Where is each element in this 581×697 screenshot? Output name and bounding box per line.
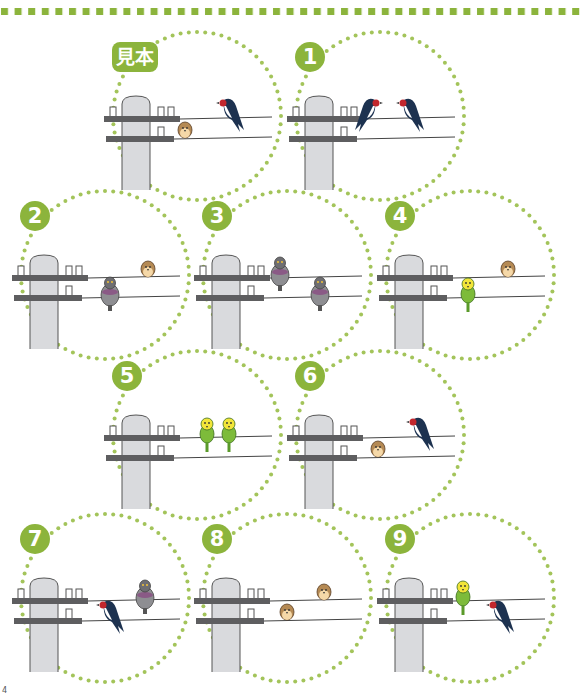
wire-bottom bbox=[357, 456, 455, 458]
panel-number-badge: 見本 bbox=[112, 42, 158, 72]
wire-top bbox=[270, 599, 362, 601]
utility-pole bbox=[12, 255, 88, 349]
panel-number-badge: 2 bbox=[20, 201, 50, 231]
sparrow-icon bbox=[141, 261, 155, 277]
wire-top bbox=[88, 276, 180, 278]
panel-1: 1 bbox=[283, 30, 473, 210]
swallow-icon bbox=[406, 418, 434, 451]
wire-top bbox=[180, 117, 272, 119]
sparrow-icon bbox=[178, 122, 192, 138]
panel-number-badge: 4 bbox=[385, 201, 415, 231]
utility-pole bbox=[287, 415, 363, 509]
utility-pole bbox=[377, 578, 453, 672]
wire-top bbox=[363, 436, 455, 438]
swallow-icon bbox=[355, 99, 383, 132]
panel-sample: 見本 bbox=[100, 30, 290, 210]
panel-number-badge: 5 bbox=[112, 361, 142, 391]
panel-7: 7 bbox=[8, 512, 198, 692]
wire-top bbox=[453, 276, 545, 278]
panel-2: 2 bbox=[8, 189, 198, 369]
sparrow-icon bbox=[317, 584, 331, 600]
panel-number-badge: 8 bbox=[202, 524, 232, 554]
utility-pole bbox=[12, 578, 88, 672]
utility-pole bbox=[194, 578, 270, 672]
wire-bottom bbox=[447, 619, 545, 621]
pigeon-icon bbox=[101, 277, 119, 311]
swallow-icon bbox=[396, 99, 424, 132]
wire-bottom bbox=[357, 137, 455, 139]
wire-bottom bbox=[264, 619, 362, 621]
sparrow-icon bbox=[280, 604, 294, 620]
wire-bottom bbox=[174, 456, 272, 458]
wire-bottom bbox=[82, 296, 180, 298]
panel-number-badge: 7 bbox=[20, 524, 50, 554]
wire-top bbox=[88, 599, 180, 601]
sparrow-icon bbox=[501, 261, 515, 277]
utility-pole bbox=[287, 96, 363, 190]
page-mark: 4 bbox=[2, 686, 7, 695]
utility-pole bbox=[377, 255, 453, 349]
parakeet-icon bbox=[461, 278, 475, 312]
wire-bottom bbox=[82, 619, 180, 621]
parakeet-icon bbox=[222, 418, 236, 452]
swallow-icon bbox=[96, 601, 124, 634]
utility-pole bbox=[104, 415, 180, 509]
panel-5: 5 bbox=[100, 349, 290, 529]
panel-3: 3 bbox=[190, 189, 380, 369]
utility-pole bbox=[104, 96, 180, 190]
pigeon-icon bbox=[136, 580, 154, 614]
panel-number-badge: 6 bbox=[295, 361, 325, 391]
sparrow-icon bbox=[371, 441, 385, 457]
panel-9: 9 bbox=[373, 512, 563, 692]
panel-number-badge: 9 bbox=[385, 524, 415, 554]
dotted-top-border bbox=[0, 8, 581, 16]
panel-4: 4 bbox=[373, 189, 563, 369]
swallow-icon bbox=[486, 601, 514, 634]
parakeet-icon bbox=[456, 581, 470, 615]
pigeon-icon bbox=[311, 277, 329, 311]
parakeet-icon bbox=[200, 418, 214, 452]
pigeon-icon bbox=[271, 257, 289, 291]
utility-pole bbox=[194, 255, 270, 349]
panel-number-badge: 1 bbox=[295, 42, 325, 72]
panel-6: 6 bbox=[283, 349, 473, 529]
panel-8: 8 bbox=[190, 512, 380, 692]
swallow-icon bbox=[216, 99, 244, 132]
panel-number-badge: 3 bbox=[202, 201, 232, 231]
